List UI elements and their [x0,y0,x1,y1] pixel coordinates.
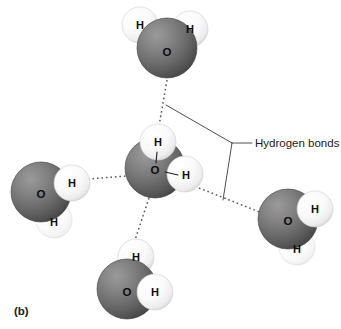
atom-label-h: H [136,19,144,31]
atom-label-o: O [123,286,132,298]
atom-label-h: H [182,169,190,181]
atom-label-h: H [68,177,76,189]
atom-label-o: O [284,215,293,227]
atom-label-o: O [163,46,172,58]
atom-label-h: H [50,216,58,228]
atom-label-h: H [311,203,319,215]
atom-label-h: H [293,243,301,255]
atom-label-h: H [132,251,140,263]
atom-label-h: H [186,23,194,35]
atom-label-o: O [151,164,160,176]
atom-label-o: O [37,188,46,200]
figure-container: H H O O H H O H H H O H [0,0,341,329]
atom-label-h: H [151,286,159,298]
hydrogen-bonds-callout-label: Hydrogen bonds [255,137,340,149]
water-hydrogen-bond-diagram: H H O O H H O H H H O H [0,0,341,329]
atom-label-h: H [154,136,162,148]
panel-label: (b) [14,305,29,317]
